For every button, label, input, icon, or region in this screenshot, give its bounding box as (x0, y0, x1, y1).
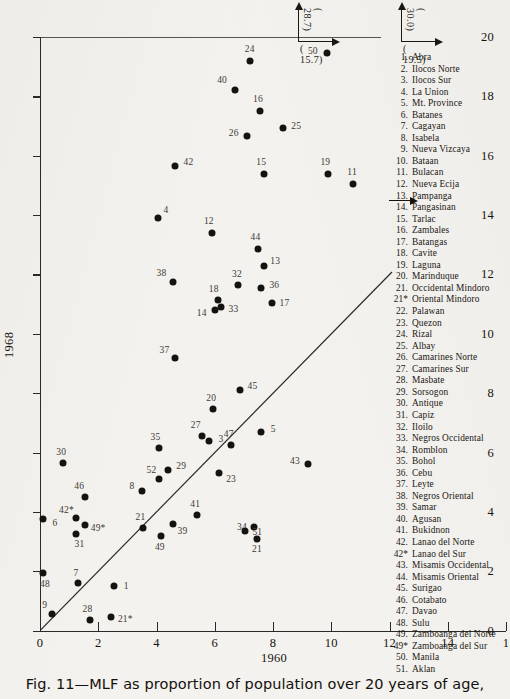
legend-item-name: Antique (412, 398, 510, 410)
legend-item-48: 48.Sulu (388, 618, 510, 630)
data-point-label-35: 35 (150, 432, 160, 442)
figure-scatter-plot: 1968 1960 02468101214161820 024681012141… (0, 0, 510, 699)
data-point-label-41: 41 (190, 499, 200, 509)
y-axis-title: 1968 (2, 332, 17, 358)
legend-item-name: Misamis Occidental (412, 560, 510, 572)
data-point-label-23: 23 (226, 474, 236, 484)
data-point-48 (39, 569, 46, 576)
data-point-4 (154, 215, 161, 222)
data-point-label-48: 48 (40, 579, 50, 589)
data-point-label-52: 52 (146, 465, 156, 475)
legend-item-name: Cavite (412, 248, 510, 260)
legend-item-number: 5. (388, 98, 412, 110)
legend-item-number: 1. (388, 52, 412, 64)
legend-item-30: 30.Antique (388, 398, 510, 410)
legend-item-name: Leyte (412, 479, 510, 491)
legend-item-16: 16.Zambales (388, 225, 510, 237)
x-tick-label-10: 10 (325, 636, 338, 651)
data-point-label-31: 31 (74, 539, 84, 549)
data-point-label-30: 30 (56, 447, 66, 457)
legend-item-21: 21.Occidental Mindoro (388, 283, 510, 295)
legend-item-number: 13. (388, 191, 412, 203)
legend-item-number: 49* (388, 641, 412, 653)
legend-item-17: 17.Batangas (388, 237, 510, 249)
legend-item-50: 50.Manila (388, 652, 510, 664)
legend-item-46: 46.Cotabato (388, 595, 510, 607)
data-point-25 (280, 124, 287, 131)
legend-item-number: 26. (388, 352, 412, 364)
y-tick-6 (33, 453, 41, 454)
legend-item-name: Iloilo (412, 422, 510, 434)
legend-item-number: 41. (388, 525, 412, 537)
data-point-label-39: 39 (178, 526, 188, 536)
legend-item-21*: 21*Oriental Mindoro (388, 294, 510, 306)
data-point-label-42*: 42* (59, 505, 74, 515)
data-point-label-42: 42 (183, 157, 193, 167)
x-tick-4 (157, 622, 158, 631)
legend-item-15: 15.Tarlac (388, 214, 510, 226)
legend-item-number: 4. (388, 87, 412, 99)
data-point-13 (261, 262, 268, 269)
legend-item-40: 40.Agusan (388, 514, 510, 526)
legend-item-33: 33.Negros Occidental (388, 433, 510, 445)
legend-item-name: Misamis Oriental (412, 572, 510, 584)
y-tick-10 (33, 334, 41, 335)
legend-item-27: 27.Camarines Sur (388, 364, 510, 376)
data-point-label-47: 47 (224, 429, 234, 439)
legend-item-34: 34.Romblon (388, 445, 510, 457)
data-point-label-19: 19 (320, 157, 330, 167)
legend-item-number: 18. (388, 248, 412, 260)
legend-item-number: 11. (388, 167, 412, 179)
legend-item-name: Capiz (412, 410, 510, 422)
x-tick-0 (40, 622, 41, 631)
offchart-note-24-y-value: ( 28.7) (302, 8, 324, 31)
legend-item-49: 49.Zamboanga del Norte (388, 629, 510, 641)
legend-item-name: Sorsogon (412, 387, 510, 399)
legend-item-12: 12.Nueva Ecija (388, 179, 510, 191)
legend-item-number: 12. (388, 179, 412, 191)
data-point-50 (323, 50, 330, 57)
legend-item-name: Palawan (412, 306, 510, 318)
legend-item-name: Lanao del Sur (412, 549, 510, 561)
data-point-label-11: 11 (347, 167, 357, 177)
figure-caption: Fig. 11—MLF as proportion of population … (0, 676, 510, 692)
data-point-21b (253, 535, 260, 542)
data-point-label-13: 13 (270, 256, 280, 266)
legend-item-number: 46. (388, 595, 412, 607)
y-tick-20 (33, 37, 41, 38)
legend-item-39: 39.Samar (388, 502, 510, 514)
y-tick-8 (33, 393, 41, 394)
legend-item-name: Davao (412, 606, 510, 618)
data-point-label-4: 4 (163, 205, 168, 215)
legend-item-number: 37. (388, 479, 412, 491)
legend-item-14: 14.Pangasinan (388, 202, 510, 214)
legend-item-number: 21* (388, 294, 412, 306)
data-point-21* (108, 614, 115, 621)
data-point-label-3: 3 (218, 434, 223, 444)
legend-item-name: Sulu (412, 618, 510, 630)
data-point-label-18: 18 (209, 284, 219, 294)
legend-item-number: 8. (388, 133, 412, 145)
legend-item-11: 11.Bulacan (388, 167, 510, 179)
data-point-32 (235, 281, 242, 288)
legend-item-19: 19.Laguna (388, 260, 510, 272)
data-point-24 (246, 57, 253, 64)
legend-item-22: 22.Palawan (388, 306, 510, 318)
legend-item-42*: 42*Lanao del Sur (388, 549, 510, 561)
data-point-29 (165, 467, 172, 474)
legend-item-name: Lanao del Norte (412, 537, 510, 549)
data-point-6 (39, 516, 46, 523)
data-point-20 (210, 406, 217, 413)
data-point-51 (242, 528, 249, 535)
legend-item-8: 8.Isabela (388, 133, 510, 145)
legend-item-number: 44. (388, 572, 412, 584)
legend-item-name: Batanes (412, 110, 510, 122)
legend-item-number: 3. (388, 75, 412, 87)
legend-item-number: 21. (388, 283, 412, 295)
data-point-label-21*: 21* (118, 614, 133, 624)
legend-item-number: 43. (388, 560, 412, 572)
x-tick-label-0: 0 (37, 636, 43, 651)
data-point-30 (60, 459, 67, 466)
data-point-44 (255, 246, 262, 253)
legend-item-number: 50. (388, 652, 412, 664)
